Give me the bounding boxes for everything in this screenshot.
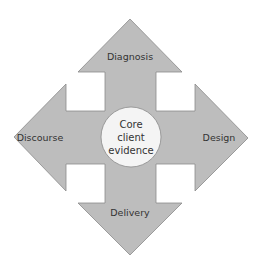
center-label-line-1: Core (119, 119, 142, 130)
center-label-line-3: evidence (108, 145, 153, 156)
arrow-label-delivery: Delivery (110, 207, 150, 218)
four-way-arrow-diagram: Diagnosis Discourse Design Delivery Core… (0, 0, 259, 267)
arrow-label-diagnosis: Diagnosis (107, 51, 153, 62)
arrow-label-design: Design (203, 132, 236, 143)
arrow-label-discourse: Discourse (17, 132, 64, 143)
center-label-line-2: client (117, 132, 145, 143)
